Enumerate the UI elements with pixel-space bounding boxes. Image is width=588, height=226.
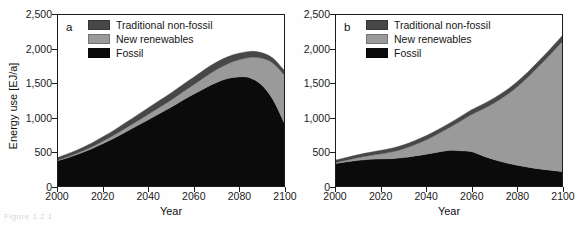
x-axis-tick-label: 2080 xyxy=(228,191,251,202)
x-axis-tick-mark xyxy=(239,187,240,192)
chart-panel-a: 05001,0001,5002,0002,500 a Traditional n… xyxy=(0,0,294,204)
x-axis-tick-mark xyxy=(57,187,58,192)
legend-item: Fossil xyxy=(366,48,491,59)
x-axis-tick-mark xyxy=(517,187,518,192)
x-axis-tick-label: 2080 xyxy=(506,191,529,202)
y-axis-tick-mark xyxy=(330,49,335,50)
legend-a: Traditional non-fossilNew renewablesFoss… xyxy=(88,20,213,59)
y-axis-tick-mark xyxy=(330,187,335,188)
x-axis-tick-mark xyxy=(563,187,564,192)
x-axis-tick-mark xyxy=(426,187,427,192)
y-axis-tick-label: 500 xyxy=(34,147,52,158)
legend-swatch-icon xyxy=(366,20,388,30)
panel-letter-b: b xyxy=(344,22,350,34)
legend-b: Traditional non-fossilNew renewablesFoss… xyxy=(366,20,491,59)
y-axis-tick-label: 1,000 xyxy=(304,113,330,124)
y-axis-tick-label: 1,500 xyxy=(304,78,330,89)
x-axis-title-b: Year xyxy=(438,205,460,217)
x-axis-tick-label: 2000 xyxy=(45,191,68,202)
y-axis-tick-mark xyxy=(52,14,57,15)
x-axis-tick-mark xyxy=(194,187,195,192)
legend-label: New renewables xyxy=(394,34,472,45)
legend-item: New renewables xyxy=(88,34,213,45)
y-axis-tick-mark xyxy=(330,83,335,84)
x-axis-tick-label: 2060 xyxy=(182,191,205,202)
x-axis-tick-mark xyxy=(381,187,382,192)
figure-caption: Figure 1.2.1 xyxy=(4,212,53,221)
panel-letter-a: a xyxy=(66,22,72,34)
x-axis-tick-label: 2020 xyxy=(91,191,114,202)
x-axis-tick-label: 2040 xyxy=(137,191,160,202)
x-axis-tick-mark xyxy=(335,187,336,192)
y-axis-tick-label: 1,500 xyxy=(26,78,52,89)
y-axis-tick-label: 2,500 xyxy=(26,9,52,20)
y-axis-tick-mark xyxy=(52,49,57,50)
legend-swatch-icon xyxy=(88,20,110,30)
legend-swatch-icon xyxy=(366,48,388,58)
legend-swatch-icon xyxy=(366,34,388,44)
y-axis-tick-mark xyxy=(330,118,335,119)
legend-label: Fossil xyxy=(394,48,421,59)
legend-label: Traditional non-fossil xyxy=(394,20,491,31)
chart-panel-b: 05001,0001,5002,0002,500 b Traditional n… xyxy=(294,0,588,204)
y-axis-tick-label: 500 xyxy=(312,147,330,158)
y-axis-tick-mark xyxy=(52,118,57,119)
legend-label: Fossil xyxy=(116,48,143,59)
y-axis-tick-label: 2,000 xyxy=(26,43,52,54)
legend-item: Traditional non-fossil xyxy=(366,20,491,31)
legend-item: New renewables xyxy=(366,34,491,45)
y-axis-tick-mark xyxy=(330,152,335,153)
x-axis-tick-label: 2020 xyxy=(369,191,392,202)
y-axis-tick-mark xyxy=(52,83,57,84)
figure-root: 05001,0001,5002,0002,500 a Traditional n… xyxy=(0,0,588,226)
x-axis-tick-label: 2000 xyxy=(323,191,346,202)
legend-swatch-icon xyxy=(88,34,110,44)
x-axis-tick-label: 2100 xyxy=(551,191,574,202)
y-axis-labels-b: 05001,0001,5002,0002,500 xyxy=(278,0,330,204)
x-axis-tick-label: 2040 xyxy=(415,191,438,202)
legend-swatch-icon xyxy=(88,48,110,58)
x-axis-tick-mark xyxy=(103,187,104,192)
x-axis-tick-label: 2060 xyxy=(460,191,483,202)
legend-label: Traditional non-fossil xyxy=(116,20,213,31)
y-axis-tick-label: 1,000 xyxy=(26,113,52,124)
x-axis-tick-mark xyxy=(148,187,149,192)
legend-label: New renewables xyxy=(116,34,194,45)
y-axis-tick-label: 2,000 xyxy=(304,43,330,54)
y-axis-tick-label: 2,500 xyxy=(304,9,330,20)
x-axis-title-a: Year xyxy=(160,205,182,217)
legend-item: Traditional non-fossil xyxy=(88,20,213,31)
y-axis-title-a: Energy use [EJ/a] xyxy=(7,46,19,166)
y-axis-tick-mark xyxy=(52,187,57,188)
x-axis-tick-mark xyxy=(472,187,473,192)
y-axis-tick-mark xyxy=(330,14,335,15)
y-axis-tick-mark xyxy=(52,152,57,153)
legend-item: Fossil xyxy=(88,48,213,59)
